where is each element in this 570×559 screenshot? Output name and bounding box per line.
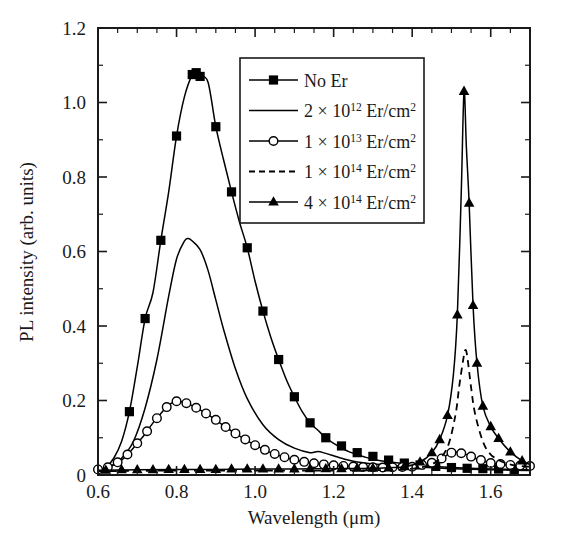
x-tick-label: 1.6 (479, 481, 503, 502)
data-marker (141, 314, 150, 323)
data-marker (353, 448, 362, 457)
data-marker (290, 455, 299, 464)
data-marker (258, 307, 267, 316)
data-marker (182, 399, 191, 408)
data-marker (133, 439, 142, 448)
data-marker (467, 452, 476, 461)
data-marker (192, 403, 201, 412)
data-marker (243, 243, 252, 252)
legend-sample-marker (269, 75, 278, 84)
data-marker (477, 456, 486, 465)
x-axis-title: Wavelength (μm) (248, 507, 381, 529)
y-tick-label: 0 (77, 465, 87, 486)
legend-sample-marker (269, 137, 278, 146)
data-marker (143, 427, 152, 436)
x-tick-label: 1.4 (400, 481, 424, 502)
data-marker (368, 452, 377, 461)
y-axis-title: PL intensity (arb. units) (16, 162, 38, 342)
data-marker (300, 458, 309, 467)
data-marker (227, 187, 236, 196)
x-tick-label: 0.6 (86, 481, 110, 502)
chart-canvas: 0.60.81.01.21.41.6 00.20.40.60.81.01.2 W… (0, 0, 570, 559)
data-marker (231, 429, 240, 438)
data-marker (125, 407, 134, 416)
data-marker (261, 446, 270, 455)
data-marker (305, 418, 314, 427)
data-marker (437, 454, 446, 463)
y-tick-label: 0.4 (62, 316, 86, 337)
data-marker (457, 449, 466, 458)
legend: No Er2 × 1012 Er/cm21 × 1013 Er/cm21 × 1… (240, 58, 424, 223)
data-marker (202, 409, 211, 418)
y-tick-label: 0.8 (62, 167, 86, 188)
data-marker (211, 122, 220, 131)
data-marker (280, 453, 289, 462)
data-marker (196, 72, 205, 81)
legend-entry-label: No Er (304, 71, 348, 91)
data-marker (212, 416, 221, 425)
data-marker (162, 403, 171, 412)
data-marker (447, 448, 456, 457)
y-tick-label: 0.6 (62, 241, 86, 262)
y-tick-label: 0.2 (62, 390, 86, 411)
x-tick-label: 1.0 (243, 481, 267, 502)
pl-spectrum-figure: 0.60.81.01.21.41.6 00.20.40.60.81.01.2 W… (0, 0, 570, 559)
data-marker (478, 464, 487, 473)
data-marker (270, 450, 279, 459)
data-marker (321, 433, 330, 442)
data-marker (221, 423, 230, 432)
data-marker (241, 435, 250, 444)
data-marker (274, 355, 283, 364)
data-marker (156, 236, 165, 245)
data-marker (290, 392, 299, 401)
y-tick-label: 1.2 (62, 18, 86, 39)
x-tick-label: 1.2 (322, 481, 346, 502)
data-marker (153, 414, 162, 423)
data-marker (251, 441, 260, 450)
x-tick-label: 0.8 (165, 481, 189, 502)
data-marker (337, 441, 346, 450)
data-marker (123, 450, 132, 459)
data-marker (172, 397, 181, 406)
data-marker (172, 131, 181, 140)
data-marker (113, 458, 122, 467)
y-tick-label: 1.0 (62, 92, 86, 113)
